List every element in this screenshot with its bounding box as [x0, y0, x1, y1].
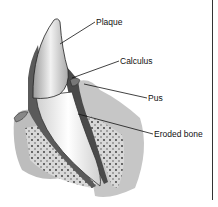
tooth-illustration	[0, 0, 218, 207]
label-pus: Pus	[148, 94, 163, 103]
label-eroded-bone: Eroded bone	[154, 130, 203, 139]
right-border-rule	[212, 0, 213, 200]
label-calculus: Calculus	[120, 57, 153, 66]
plaque-leader	[60, 22, 95, 44]
tooth-diagram: Plaque Calculus Pus Eroded bone	[0, 0, 218, 207]
label-plaque: Plaque	[96, 18, 122, 27]
tooth-crown	[33, 19, 68, 99]
calculus-leader	[72, 61, 119, 78]
